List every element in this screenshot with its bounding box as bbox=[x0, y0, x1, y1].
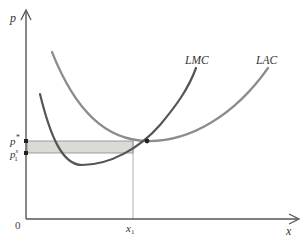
intersection-point bbox=[145, 139, 150, 144]
cost-curves-diagram: p x 0 LMC LAC p* ps1 x1 bbox=[0, 0, 306, 239]
origin-label: 0 bbox=[15, 219, 21, 231]
x1-label: x1 bbox=[125, 222, 135, 236]
x-axis-label: x bbox=[285, 224, 292, 238]
lac-curve bbox=[52, 52, 268, 141]
p1s-dot bbox=[24, 151, 28, 155]
lac-label: LAC bbox=[255, 54, 277, 66]
p-star-dot bbox=[24, 139, 28, 143]
p-star-label: p* bbox=[9, 133, 20, 147]
p1s-label: ps1 bbox=[9, 147, 19, 163]
y-axis-label: p bbox=[9, 11, 16, 25]
shaded-region bbox=[27, 141, 133, 153]
lmc-label: LMC bbox=[184, 54, 209, 66]
